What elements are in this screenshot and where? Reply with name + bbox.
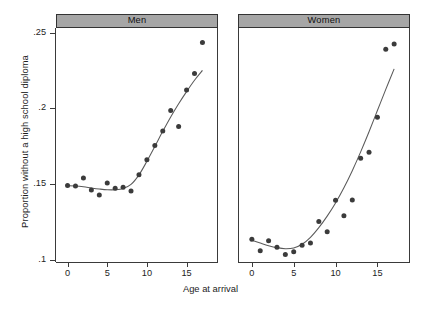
data-point — [121, 185, 126, 190]
panel-men: Men — [56, 14, 218, 262]
x-tick-label: 5 — [291, 268, 296, 278]
y-tick-label: .1 — [16, 254, 46, 264]
x-tick-label: 0 — [249, 268, 254, 278]
lowess-fit-line — [68, 70, 203, 189]
data-point — [65, 183, 70, 188]
x-tick-mark — [187, 262, 188, 267]
plot-area-women — [238, 28, 410, 262]
panel-women: Women — [238, 14, 410, 262]
data-point — [200, 40, 205, 45]
data-point — [129, 189, 134, 194]
data-point — [184, 88, 189, 93]
data-point — [316, 219, 321, 224]
x-tick-label: 5 — [105, 268, 110, 278]
x-tick-mark — [377, 262, 378, 267]
x-tick-mark — [107, 262, 108, 267]
data-point — [325, 229, 330, 234]
data-point — [300, 243, 305, 248]
data-point — [168, 108, 173, 113]
figure-root: Proportion without a high school diploma… — [0, 0, 421, 310]
data-point — [283, 252, 288, 257]
x-tick-mark — [68, 262, 69, 267]
data-point — [350, 197, 355, 202]
x-axis-line — [238, 262, 410, 263]
plot-area-men — [56, 28, 218, 262]
y-tick-mark — [50, 260, 55, 261]
x-tick-label: 15 — [181, 268, 191, 278]
data-point — [160, 128, 165, 133]
panel-strip-men: Men — [56, 14, 218, 28]
data-point — [274, 245, 279, 250]
y-axis-title: Proportion without a high school diploma — [19, 22, 30, 262]
x-axis-title: Age at arrival — [0, 283, 421, 294]
panel-right-border-men — [217, 28, 218, 262]
y-tick-label: .25 — [16, 27, 46, 37]
data-point — [81, 175, 86, 180]
data-point — [105, 180, 110, 185]
y-tick-label: .2 — [16, 102, 46, 112]
data-point — [392, 41, 397, 46]
panel-title-women: Women — [308, 16, 341, 25]
x-tick-mark — [147, 262, 148, 267]
data-point — [308, 241, 313, 246]
lowess-fit-line — [252, 69, 394, 249]
y-tick-label: .15 — [16, 178, 46, 188]
data-point — [258, 248, 263, 253]
data-point — [341, 213, 346, 218]
x-tick-mark — [252, 262, 253, 267]
data-point — [333, 198, 338, 203]
data-point — [375, 115, 380, 120]
plot-svg-women — [238, 28, 410, 262]
data-point — [73, 183, 78, 188]
x-tick-label: 10 — [142, 268, 152, 278]
x-tick-label: 10 — [330, 268, 340, 278]
y-tick-mark — [50, 108, 55, 109]
data-point — [192, 71, 197, 76]
data-point — [144, 157, 149, 162]
data-point — [291, 249, 296, 254]
data-point — [97, 192, 102, 197]
panel-title-men: Men — [128, 16, 147, 25]
data-point — [89, 188, 94, 193]
x-tick-label: 15 — [372, 268, 382, 278]
x-tick-mark — [336, 262, 337, 267]
data-point — [136, 172, 141, 177]
x-tick-mark — [294, 262, 295, 267]
y-tick-mark — [50, 33, 55, 34]
data-point — [367, 150, 372, 155]
data-point — [113, 186, 118, 191]
panel-left-border-women — [238, 28, 239, 262]
panel-strip-women: Women — [238, 14, 410, 28]
x-axis-line — [56, 262, 218, 263]
data-point — [152, 143, 157, 148]
data-point — [176, 124, 181, 129]
plot-svg-men — [56, 28, 218, 262]
data-point — [249, 237, 254, 242]
y-tick-mark — [50, 184, 55, 185]
data-point — [358, 156, 363, 161]
panel-right-border-women — [409, 28, 410, 262]
data-point — [383, 47, 388, 52]
x-tick-label: 0 — [65, 268, 70, 278]
data-point — [266, 238, 271, 243]
